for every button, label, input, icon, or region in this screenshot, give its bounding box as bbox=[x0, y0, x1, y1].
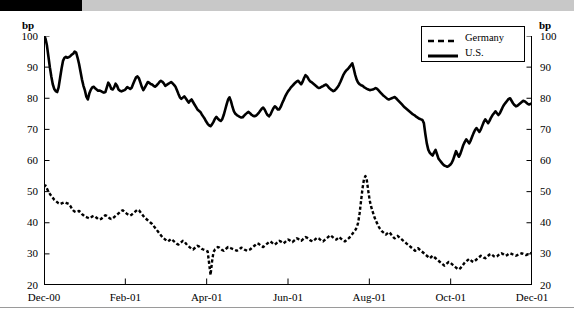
y-tick-label-left-70: 70 bbox=[14, 124, 38, 135]
y-tick-label-left-20: 20 bbox=[14, 280, 38, 291]
x-tick-label-oct-01: Oct-01 bbox=[416, 292, 486, 303]
x-tick-label-apr-01: Apr-01 bbox=[172, 292, 242, 303]
plot-area bbox=[44, 36, 532, 285]
x-tick-label-aug-01: Aug-01 bbox=[334, 292, 404, 303]
x-tick-label-dec-00: Dec-00 bbox=[9, 292, 79, 303]
y-tick-label-left-60: 60 bbox=[14, 155, 38, 166]
y-tick-label-right-60: 60 bbox=[540, 155, 566, 166]
solid-line-icon bbox=[428, 47, 458, 57]
y-tick-label-right-20: 20 bbox=[540, 280, 566, 291]
legend: Germany U.S. bbox=[421, 26, 525, 62]
x-tick-label-dec-01: Dec-01 bbox=[497, 292, 567, 303]
bottom-divider bbox=[0, 307, 574, 308]
y-tick-label-right-70: 70 bbox=[540, 124, 566, 135]
y-tick-label-left-50: 50 bbox=[14, 186, 38, 197]
x-tick-label-feb-01: Feb-01 bbox=[90, 292, 160, 303]
chart-figure: bp bp 2030405060708090100 20304050607080… bbox=[0, 0, 574, 321]
dashed-line-icon bbox=[428, 32, 458, 42]
y-tick-label-left-30: 30 bbox=[14, 248, 38, 259]
legend-label-germany: Germany bbox=[465, 32, 504, 43]
legend-label-us: U.S. bbox=[465, 47, 484, 58]
y-tick-label-right-100: 100 bbox=[540, 31, 566, 42]
series-line-germany bbox=[44, 176, 532, 275]
y-tick-label-right-50: 50 bbox=[540, 186, 566, 197]
y-tick-label-left-40: 40 bbox=[14, 217, 38, 228]
y-tick-label-right-40: 40 bbox=[540, 217, 566, 228]
y-tick-label-left-80: 80 bbox=[14, 93, 38, 104]
y-tick-label-left-100: 100 bbox=[14, 31, 38, 42]
axes-group bbox=[44, 36, 532, 285]
series-group bbox=[44, 36, 532, 275]
y-tick-label-right-90: 90 bbox=[540, 62, 566, 73]
y-tick-label-left-90: 90 bbox=[14, 62, 38, 73]
legend-entry-us: U.S. bbox=[428, 45, 484, 59]
x-tick-label-jun-01: Jun-01 bbox=[253, 292, 323, 303]
legend-entry-germany: Germany bbox=[428, 30, 504, 44]
plot-svg bbox=[44, 36, 532, 285]
header-gray-bar bbox=[82, 0, 574, 11]
header-black-bar bbox=[0, 0, 82, 11]
y-tick-label-right-80: 80 bbox=[540, 93, 566, 104]
y-tick-label-right-30: 30 bbox=[540, 248, 566, 259]
